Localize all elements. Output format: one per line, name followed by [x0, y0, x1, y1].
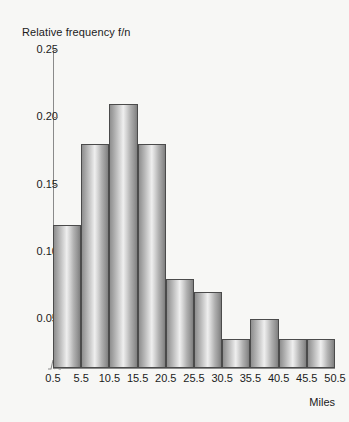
- bar: [109, 104, 137, 368]
- bar: [81, 144, 109, 368]
- y-tick-0.20: 0.20: [0, 117, 58, 118]
- y-tick-mark: [53, 50, 58, 51]
- bar: [53, 225, 81, 368]
- y-tick-label: 0.15: [12, 178, 58, 190]
- bar: [138, 144, 166, 368]
- x-axis-line: [53, 368, 335, 369]
- bar: [194, 292, 222, 368]
- y-tick-0.25: 0.25: [0, 50, 58, 51]
- bar: [166, 279, 194, 368]
- bar: [250, 319, 278, 368]
- bar: [222, 339, 250, 368]
- y-tick-0.15: 0.15: [0, 185, 58, 186]
- y-tick-label: 0.10: [12, 245, 58, 257]
- histogram-chart: Relative frequency f/n 0.250.200.150.100…: [0, 0, 349, 422]
- y-tick-mark: [53, 185, 58, 186]
- y-tick-mark: [53, 117, 58, 118]
- y-tick-0.05: 0.05: [0, 319, 58, 320]
- bar: [307, 339, 335, 368]
- x-axis-title: Miles: [309, 396, 335, 408]
- y-tick-label: 0.25: [12, 43, 58, 55]
- y-tick-label: 0.05: [12, 312, 58, 324]
- y-tick-0.10: 0.10: [0, 252, 58, 253]
- plot-area: 0.250.200.150.100.05 0.55.510.515.520.52…: [0, 0, 349, 422]
- x-tick-label: 50.5: [318, 372, 349, 384]
- bar: [279, 339, 307, 368]
- y-tick-label: 0.20: [12, 110, 58, 122]
